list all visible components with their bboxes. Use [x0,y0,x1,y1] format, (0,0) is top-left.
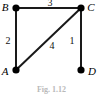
edge-weight-C-D: 1 [70,35,75,46]
edge-weight-A-C: 4 [50,40,55,51]
edge-weight-B-C: 3 [48,0,53,8]
node-label-D: D [87,65,96,77]
node-label-C: C [87,1,95,13]
graph-figure: B C A D 3 2 4 1 Fig. 1.12 [0,0,103,95]
node-A [12,66,19,73]
node-label-B: B [2,1,9,13]
edge-weight-B-A: 2 [6,35,11,46]
graph-canvas: B C A D 3 2 4 1 [0,0,103,95]
figure-caption: Fig. 1.12 [0,85,103,95]
node-label-A: A [1,65,9,77]
node-D [77,66,84,73]
node-B [12,4,19,11]
node-C [77,4,84,11]
